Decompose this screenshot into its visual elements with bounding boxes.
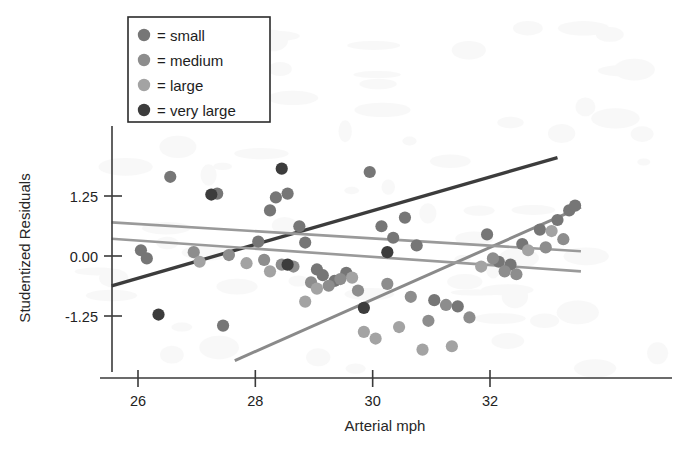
data-point xyxy=(352,284,364,296)
data-point xyxy=(522,244,534,256)
data-point xyxy=(258,254,270,266)
data-point xyxy=(282,188,294,200)
data-point xyxy=(141,252,153,264)
data-point xyxy=(282,259,294,271)
data-point xyxy=(499,265,511,277)
data-point xyxy=(358,302,370,314)
scatter-plot: 1.250.00-1.2526283032Arterial mphStudent… xyxy=(0,0,690,456)
data-point xyxy=(240,257,252,269)
data-point xyxy=(293,220,305,232)
legend-swatch-medium-icon xyxy=(138,54,150,66)
y-tick-label: -1.25 xyxy=(65,309,98,325)
data-point xyxy=(364,166,376,178)
x-tick-label: 26 xyxy=(130,393,146,409)
data-point xyxy=(381,246,393,258)
x-tick-label: 32 xyxy=(482,393,498,409)
legend-label: = large xyxy=(157,77,203,94)
data-point xyxy=(370,332,382,344)
legend-swatch-small-icon xyxy=(138,29,150,41)
data-point xyxy=(264,204,276,216)
data-point xyxy=(452,300,464,312)
data-point xyxy=(164,171,176,183)
y-tick-label: 1.25 xyxy=(70,189,98,205)
data-point xyxy=(405,291,417,303)
data-point xyxy=(299,296,311,308)
data-point xyxy=(152,308,164,320)
x-tick-label: 30 xyxy=(365,393,381,409)
legend-swatch-very-large-icon xyxy=(138,104,150,116)
y-axis-title: Studentized Residuals xyxy=(16,173,33,322)
legend-label: = small xyxy=(157,27,205,44)
data-point xyxy=(381,278,393,290)
chart-canvas: 1.250.00-1.2526283032Arterial mphStudent… xyxy=(0,0,690,456)
data-point xyxy=(387,232,399,244)
data-point xyxy=(510,268,522,280)
data-point xyxy=(334,273,346,285)
data-point xyxy=(534,224,546,236)
legend-label: = medium xyxy=(157,52,223,69)
data-point xyxy=(475,260,487,272)
data-point xyxy=(399,212,411,224)
data-point xyxy=(463,311,475,323)
data-point xyxy=(299,236,311,248)
legend-label: = very large xyxy=(157,102,236,119)
data-point xyxy=(252,236,264,248)
data-point xyxy=(205,188,217,200)
data-point xyxy=(393,321,405,333)
data-point xyxy=(569,200,581,212)
data-point xyxy=(358,326,370,338)
data-point xyxy=(540,241,552,253)
data-point xyxy=(217,320,229,332)
legend[interactable]: = small= medium= large= very large xyxy=(128,17,270,122)
data-point xyxy=(323,280,335,292)
y-tick-label: 0.00 xyxy=(70,249,98,265)
data-point xyxy=(411,239,423,251)
data-point xyxy=(481,228,493,240)
data-point xyxy=(551,214,563,226)
x-tick-label: 28 xyxy=(247,393,263,409)
data-point xyxy=(446,340,458,352)
data-point xyxy=(375,220,387,232)
data-point xyxy=(416,344,428,356)
data-point xyxy=(264,265,276,277)
data-point xyxy=(440,299,452,311)
x-axis-title: Arterial mph xyxy=(345,417,426,434)
data-point xyxy=(557,233,569,245)
data-point xyxy=(311,283,323,295)
data-point xyxy=(546,225,558,237)
data-point xyxy=(223,249,235,261)
data-point xyxy=(422,315,434,327)
data-point xyxy=(317,269,329,281)
data-point xyxy=(276,163,288,175)
data-point xyxy=(194,256,206,268)
legend-swatch-large-icon xyxy=(138,79,150,91)
data-point xyxy=(487,252,499,264)
data-point xyxy=(428,294,440,306)
data-point xyxy=(346,272,358,284)
data-point xyxy=(270,191,282,203)
